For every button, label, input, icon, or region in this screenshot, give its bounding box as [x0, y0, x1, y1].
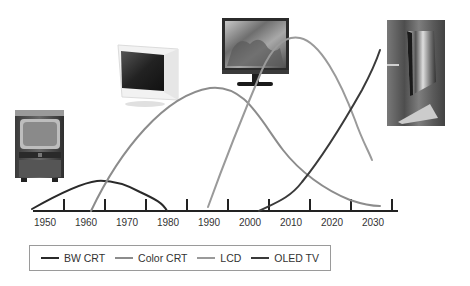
technology-lifecycle-chart: 1950 1960 1970 1980 1990 2000 2010 2020 …: [0, 0, 470, 286]
color-crt-monitor-image: [118, 45, 178, 107]
tick-label: 1980: [157, 217, 180, 228]
tick-label: 1970: [116, 217, 139, 228]
tick-label: 1960: [75, 217, 98, 228]
tick-label: 2000: [239, 217, 262, 228]
legend-item-lcd: LCD: [197, 252, 241, 264]
tick-label: 1990: [198, 217, 221, 228]
legend-item-oled-tv: OLED TV: [251, 252, 319, 264]
oled-tv-image: [387, 20, 445, 126]
legend-swatch: [251, 257, 269, 259]
lcd-monitor-image: [222, 18, 289, 86]
legend-swatch: [197, 257, 215, 259]
series-oled-tv: [259, 50, 380, 211]
legend-label: LCD: [220, 252, 241, 264]
legend-label: OLED TV: [274, 252, 319, 264]
tick-label: 1950: [34, 217, 57, 228]
x-axis-labels: 1950 1960 1970 1980 1990 2000 2010 2020 …: [34, 217, 385, 228]
chart-legend: BW CRT Color CRT LCD OLED TV: [29, 245, 331, 271]
tick-label: 2030: [362, 217, 385, 228]
legend-item-color-crt: Color CRT: [115, 252, 187, 264]
x-axis: 1950 1960 1970 1980 1990 2000 2010 2020 …: [33, 199, 398, 228]
tick-label: 2020: [321, 217, 344, 228]
legend-label: BW CRT: [64, 252, 105, 264]
bw-crt-tv-image: [15, 110, 64, 182]
legend-swatch: [41, 257, 59, 259]
legend-swatch: [115, 257, 133, 259]
legend-item-bw-crt: BW CRT: [41, 252, 105, 264]
x-axis-ticks: [64, 199, 392, 211]
legend-label: Color CRT: [138, 252, 187, 264]
tick-label: 2010: [280, 217, 303, 228]
